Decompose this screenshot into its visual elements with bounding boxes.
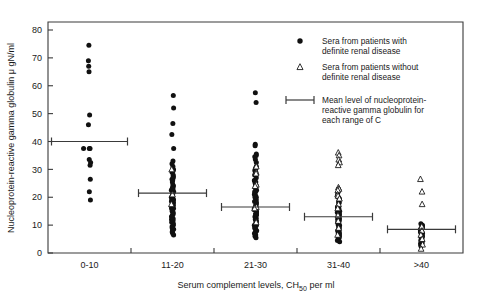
data-point-circle xyxy=(252,231,257,236)
legend-label: reactive gamma globulin for xyxy=(322,105,424,115)
x-tick-label: >40 xyxy=(414,260,429,270)
x-axis-label-subscript: 50 xyxy=(299,285,307,292)
data-point-circle xyxy=(253,225,258,230)
data-point-circle xyxy=(254,100,259,105)
data-point-circle xyxy=(171,146,176,151)
data-point-circle xyxy=(86,58,91,63)
data-point-circle xyxy=(86,64,91,69)
data-point-triangle xyxy=(419,201,425,207)
chart-figure: 01020304050607080 0-1011-2021-3031-40>40… xyxy=(0,0,477,296)
data-point-circle xyxy=(88,198,93,203)
y-tick-label: 0 xyxy=(37,248,42,258)
data-point-circle xyxy=(171,93,176,98)
x-axis-label: Serum complement levels, CH50 per ml xyxy=(178,280,335,292)
y-tick-label: 40 xyxy=(32,137,42,147)
x-tick-label: 0-10 xyxy=(80,260,98,270)
legend-marker-triangle xyxy=(297,64,303,70)
data-point-circle xyxy=(170,121,175,126)
data-point-circle xyxy=(87,113,92,118)
data-point-circle xyxy=(170,178,175,183)
data-point-circle xyxy=(87,189,92,194)
chart-legend: Sera from patients withdefinite renal di… xyxy=(286,36,426,125)
y-tick-label: 10 xyxy=(32,220,42,230)
data-point-circle xyxy=(170,217,175,222)
y-tick-label: 70 xyxy=(32,53,42,63)
data-point-circle xyxy=(88,146,93,151)
x-tick-label: 21-30 xyxy=(244,260,267,270)
data-point-circle xyxy=(252,195,257,200)
data-point-circle xyxy=(170,186,175,191)
svg-text:Serum complement levels, CH50: Serum complement levels, CH50 per ml xyxy=(178,280,335,292)
data-point-triangle xyxy=(419,189,425,195)
legend-label: Sera from patients with xyxy=(322,36,407,46)
data-point-circle xyxy=(88,163,93,168)
legend-label: definite renal disease xyxy=(322,46,401,56)
legend-label: Sera from patients without xyxy=(322,62,419,72)
data-point-circle xyxy=(252,189,257,194)
y-axis: 01020304050607080 xyxy=(32,25,53,258)
data-point-circle xyxy=(337,239,342,244)
data-point-circle xyxy=(169,132,174,137)
legend-marker-error-bar xyxy=(286,96,314,104)
data-point-circle xyxy=(253,143,258,148)
legend-label: definite renal disease xyxy=(322,72,401,82)
legend-marker-circle xyxy=(297,38,302,43)
y-axis-label: Nucleoprotein-reactive gamma globulin μ … xyxy=(6,43,16,233)
y-tick-label: 60 xyxy=(32,81,42,91)
y-tick-label: 30 xyxy=(32,165,42,175)
data-point-triangle xyxy=(418,176,424,182)
data-point-circle xyxy=(253,211,258,216)
x-tick-label: 31-40 xyxy=(327,260,350,270)
mean-bar xyxy=(52,138,128,146)
legend-label: Mean level of nucleoprotein- xyxy=(322,95,426,105)
data-point-circle xyxy=(86,43,91,48)
data-point-circle xyxy=(87,69,92,74)
data-point-circle xyxy=(81,146,86,151)
y-tick-label: 50 xyxy=(32,109,42,119)
legend-entry: Sera from patients withoutdefinite renal… xyxy=(297,62,419,82)
x-tick-label: 11-20 xyxy=(161,260,183,270)
y-tick-label: 20 xyxy=(32,192,42,202)
legend-entry: Sera from patients withdefinite renal di… xyxy=(297,36,407,56)
legend-entry: Mean level of nucleoprotein-reactive gam… xyxy=(286,95,426,125)
scatter-plot-svg: 01020304050607080 0-1011-2021-3031-40>40… xyxy=(0,0,477,296)
legend-label: each range of C xyxy=(322,115,381,125)
data-point-circle xyxy=(88,177,93,182)
data-point-circle xyxy=(171,106,176,111)
data-point-circle xyxy=(86,122,91,127)
x-axis: 0-1011-2021-3031-40>40 xyxy=(80,248,429,270)
data-point-circle xyxy=(171,232,176,237)
y-tick-label: 80 xyxy=(32,25,42,35)
x-axis-label-main: Serum complement levels, CH xyxy=(178,280,300,290)
x-axis-label-tail: per ml xyxy=(307,280,335,290)
data-point-circle xyxy=(253,90,258,95)
